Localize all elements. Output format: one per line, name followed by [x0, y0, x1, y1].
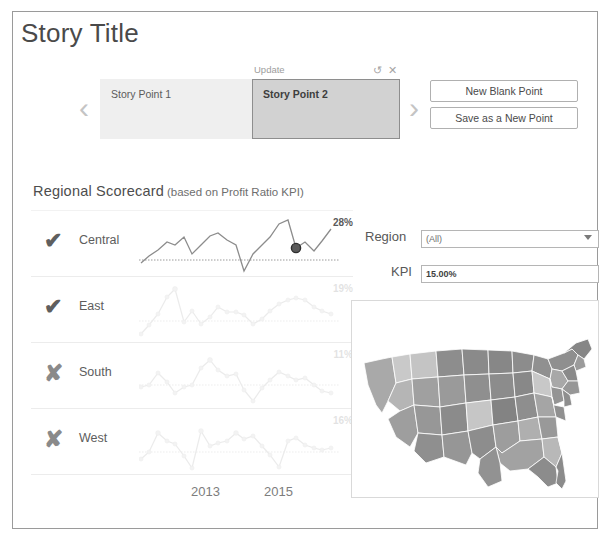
- sparkline-axis: 2013 2015: [139, 484, 339, 506]
- table-row[interactable]: ✔ East: [31, 277, 353, 343]
- chevron-left-icon[interactable]: ‹: [75, 91, 93, 125]
- status-check-icon: ✔: [39, 293, 67, 321]
- update-label: Update: [254, 64, 285, 75]
- dashboard-frame: Story Title ‹ › Update ↺ ✕ Story Point 1…: [12, 11, 598, 529]
- region-label: West: [79, 431, 107, 445]
- status-cross-icon: ✘: [39, 425, 67, 453]
- region-label: South: [79, 365, 112, 379]
- table-row[interactable]: ✘ West: [31, 409, 353, 475]
- sparkline-south: [139, 345, 339, 406]
- new-blank-point-button[interactable]: New Blank Point: [430, 80, 578, 102]
- status-check-icon: ✔: [39, 227, 67, 255]
- story-navigator: ‹ › Update ↺ ✕ Story Point 1 Story Point…: [65, 67, 585, 152]
- kpi-label: KPI: [391, 264, 412, 279]
- sparkline-value: 19%: [333, 283, 353, 294]
- chevron-down-icon[interactable]: [584, 235, 592, 240]
- story-point-actions: New Blank Point Save as a New Point: [430, 80, 580, 134]
- kpi-input[interactable]: 15.00%: [421, 265, 599, 283]
- refresh-icon[interactable]: ↺: [373, 63, 382, 77]
- scorecard-heading: Regional Scorecard(based on Profit Ratio…: [33, 182, 304, 200]
- close-icon[interactable]: ✕: [388, 63, 397, 77]
- page-title: Story Title: [21, 18, 139, 49]
- chevron-right-icon[interactable]: ›: [405, 91, 423, 125]
- region-filter: Region (All): [365, 228, 599, 248]
- united-states-map: [352, 301, 598, 497]
- save-as-new-point-button[interactable]: Save as a New Point: [430, 107, 578, 129]
- kpi-value: 15.00%: [426, 269, 457, 279]
- axis-tick-2013: 2013: [191, 484, 220, 499]
- story-point-update-bar: Update ↺ ✕: [252, 65, 400, 79]
- sparkline-value: 28%: [333, 217, 353, 228]
- kpi-parameter: KPI 15.00%: [365, 263, 599, 283]
- region-filter-label: Region: [365, 229, 406, 244]
- sparkline-west: [139, 411, 339, 472]
- dashboard-root: Story Title ‹ › Update ↺ ✕ Story Point 1…: [0, 0, 612, 541]
- table-row[interactable]: ✔ Central 28%: [31, 210, 353, 277]
- status-cross-icon: ✘: [39, 359, 67, 387]
- story-point-2[interactable]: Story Point 2: [252, 79, 400, 139]
- sparkline-east: [139, 279, 339, 340]
- region-filter-dropdown[interactable]: (All): [421, 230, 599, 248]
- story-point-1[interactable]: Story Point 1: [100, 79, 252, 139]
- scorecard-heading-sub: (based on Profit Ratio KPI): [167, 186, 304, 198]
- scorecard-heading-main: Regional Scorecard: [33, 183, 164, 199]
- region-label: Central: [79, 233, 119, 247]
- axis-tick-2015: 2015: [264, 484, 293, 499]
- map-panel[interactable]: [351, 300, 599, 498]
- scorecard-table: ✔ Central 28% ✔ East: [31, 210, 353, 500]
- sparkline-central: [139, 213, 339, 274]
- sparkline-value: 16%: [333, 415, 353, 426]
- region-label: East: [79, 299, 104, 313]
- story-point-track: Update ↺ ✕ Story Point 1 Story Point 2: [100, 79, 400, 139]
- table-row[interactable]: ✘ South: [31, 343, 353, 409]
- region-filter-value: (All): [426, 234, 442, 244]
